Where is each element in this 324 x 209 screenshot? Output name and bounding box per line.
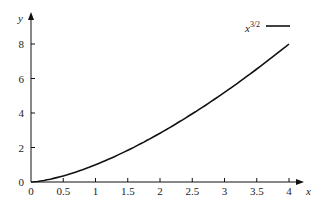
y-tick-label: 4 — [19, 107, 25, 119]
x-tick-label: 0 — [28, 185, 34, 197]
y-tick-label: 0 — [19, 176, 25, 188]
chart-canvas: 00.511.522.533.54 02468 x y x3/2 — [0, 0, 324, 209]
x-tick-label: 4 — [286, 185, 292, 197]
series-line — [31, 44, 289, 182]
y-tick-label: 6 — [19, 73, 25, 85]
axes — [31, 14, 302, 182]
x-tick-label: 1.5 — [121, 185, 135, 197]
y-tick-label: 2 — [19, 142, 25, 154]
x-tick-label: 3 — [222, 185, 228, 197]
x-tick-label: 2 — [157, 185, 163, 197]
x-tick-label: 2.5 — [185, 185, 199, 197]
x-tick-label: 0.5 — [56, 185, 70, 197]
legend-label: x3/2 — [244, 20, 260, 34]
y-ticks: 02468 — [19, 38, 36, 188]
legend: x3/2 — [244, 20, 290, 34]
x-ticks: 00.511.522.533.54 — [28, 178, 292, 197]
x-axis-label: x — [305, 185, 311, 197]
y-tick-label: 8 — [19, 38, 25, 50]
x-tick-label: 1 — [93, 185, 99, 197]
y-axis-label: y — [17, 12, 23, 24]
x-tick-label: 3.5 — [250, 185, 264, 197]
